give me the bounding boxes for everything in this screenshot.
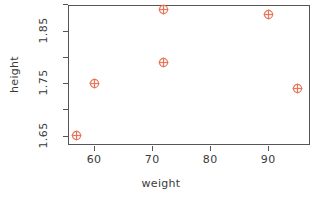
data-point bbox=[89, 78, 100, 89]
x-axis-tick-label: 70 bbox=[132, 153, 172, 166]
data-point bbox=[158, 4, 169, 15]
plot-frame bbox=[68, 5, 310, 145]
y-axis-tick bbox=[63, 109, 68, 110]
y-axis-tick-label: 1.75 bbox=[37, 66, 50, 100]
x-axis-tick bbox=[94, 146, 95, 151]
x-axis-tick-label: 80 bbox=[190, 153, 230, 166]
y-axis-tick bbox=[63, 57, 68, 58]
data-point bbox=[263, 9, 274, 20]
y-axis-tick-label: 1.65 bbox=[37, 118, 50, 152]
data-point bbox=[292, 83, 303, 94]
x-axis-tick-label: 60 bbox=[74, 153, 114, 166]
y-axis-title: height bbox=[8, 45, 21, 105]
scatter-plot: 1.651.751.85 60708090 weight height bbox=[0, 0, 322, 203]
y-axis-tick bbox=[63, 83, 68, 84]
x-axis-tick-label: 90 bbox=[248, 153, 288, 166]
y-axis-tick bbox=[63, 31, 68, 32]
y-axis-tick bbox=[63, 4, 68, 5]
data-point bbox=[71, 130, 82, 141]
x-axis-tick bbox=[152, 146, 153, 151]
x-axis-title: weight bbox=[0, 177, 322, 190]
data-point bbox=[158, 57, 169, 68]
y-axis-tick bbox=[63, 136, 68, 137]
y-axis-tick-label: 1.85 bbox=[37, 13, 50, 47]
x-axis-tick bbox=[268, 146, 269, 151]
x-axis-tick bbox=[210, 146, 211, 151]
